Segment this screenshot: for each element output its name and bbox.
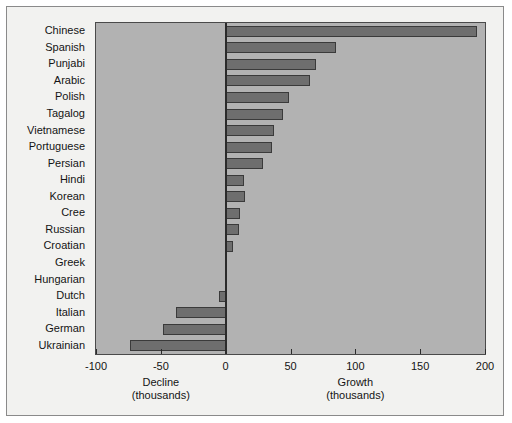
bar [226, 75, 310, 86]
bar [226, 26, 478, 37]
bar [226, 42, 336, 53]
category-label: Italian [56, 306, 85, 318]
decline-caption-line1: Decline [132, 376, 190, 389]
category-label: Ukrainian [39, 339, 85, 351]
x-tick-label: 200 [476, 360, 494, 372]
x-tick-label: -50 [153, 360, 169, 372]
category-label: Greek [55, 256, 85, 268]
x-tick-label: 100 [346, 360, 364, 372]
category-label: Arabic [54, 74, 85, 86]
x-tick-label: 0 [223, 360, 229, 372]
bar [226, 224, 239, 235]
decline-axis-caption: Decline(thousands) [132, 376, 190, 402]
bar [226, 175, 244, 186]
plot-area [95, 22, 486, 355]
zero-axis-line [225, 23, 227, 354]
category-label: Russian [45, 223, 85, 235]
x-tick-mark [291, 349, 292, 354]
category-label: Portuguese [29, 140, 85, 152]
category-label: Korean [50, 190, 85, 202]
growth-axis-caption: Growth(thousands) [326, 376, 384, 402]
bar [226, 208, 240, 219]
bar [226, 142, 273, 153]
x-tick-mark [485, 349, 486, 354]
x-tick-label: 50 [284, 360, 296, 372]
x-axis: -100-50050100150200 [95, 355, 486, 367]
category-label: Punjabi [48, 57, 85, 69]
bar [130, 340, 226, 351]
category-label: Persian [48, 157, 85, 169]
bars-layer [96, 23, 485, 354]
category-label: Dutch [56, 289, 85, 301]
x-tick-mark [355, 349, 356, 354]
figure: ChineseSpanishPunjabiArabicPolishTagalog… [0, 0, 512, 423]
bar [226, 158, 264, 169]
bar [226, 92, 290, 103]
x-tick-label: 150 [411, 360, 429, 372]
growth-caption-line2: (thousands) [326, 389, 384, 402]
category-label: Polish [55, 90, 85, 102]
category-label: Hungarian [34, 273, 85, 285]
category-label: Cree [61, 206, 85, 218]
bar [226, 191, 245, 202]
chart-screenshot: ChineseSpanishPunjabiArabicPolishTagalog… [0, 0, 512, 423]
category-label: German [45, 322, 85, 334]
category-label: Hindi [60, 173, 85, 185]
x-tick-mark [161, 349, 162, 354]
bar [226, 241, 234, 252]
bar [176, 307, 225, 318]
growth-caption-line1: Growth [326, 376, 384, 389]
bar [226, 125, 274, 136]
category-axis-labels: ChineseSpanishPunjabiArabicPolishTagalog… [0, 22, 90, 355]
bar [163, 324, 225, 335]
bar [226, 109, 283, 120]
category-label: Vietnamese [27, 124, 85, 136]
category-label: Tagalog [46, 107, 85, 119]
bar [226, 59, 317, 70]
decline-caption-line2: (thousands) [132, 389, 190, 402]
category-label: Chinese [45, 24, 85, 36]
category-label: Croatian [43, 239, 85, 251]
category-label: Spanish [45, 41, 85, 53]
x-tick-label: -100 [85, 360, 107, 372]
x-tick-mark [96, 349, 97, 354]
x-tick-mark [420, 349, 421, 354]
x-tick-mark [226, 349, 227, 354]
